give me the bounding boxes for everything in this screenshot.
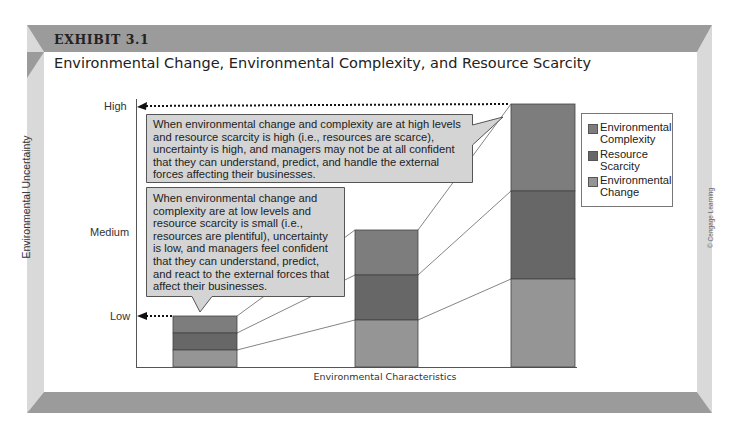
callout-high-text: When environmental change and complexity…: [153, 118, 461, 181]
legend-swatch-scarcity: [588, 151, 598, 161]
callout-low-text: When environmental change and complexity…: [153, 192, 329, 293]
x-axis-label: Environmental Characteristics: [260, 371, 510, 382]
copyright-notice: © Cengage Learning: [707, 188, 714, 248]
legend: Environmental Complexity Resource Scarci…: [581, 113, 673, 207]
bar-high: [511, 104, 575, 367]
y-tick-low: Low: [110, 310, 130, 322]
legend-swatch-change: [588, 177, 598, 187]
y-axis-label: Environmental Uncertainty: [20, 122, 32, 272]
legend-swatch-complexity: [588, 124, 598, 134]
arrowhead-low-icon: [137, 312, 147, 320]
stacked-bar-chart: [0, 0, 737, 429]
bar-low: [173, 316, 237, 367]
bar-medium: [355, 230, 418, 367]
y-tick-high: High: [104, 100, 127, 112]
arrowhead-high-icon: [137, 102, 147, 110]
y-tick-medium: Medium: [90, 226, 129, 238]
